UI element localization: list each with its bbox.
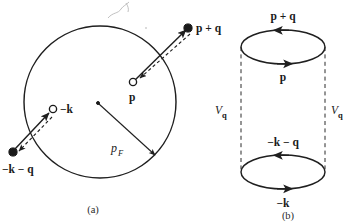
bottom-loop-ellipse	[241, 155, 325, 189]
particle-dot-p-plus-q	[184, 24, 192, 32]
label-top-p: p	[280, 71, 286, 84]
label-vq-right-subscript: q	[338, 110, 343, 120]
label-p-plus-q: p + q	[196, 22, 222, 35]
scatter-in-arrow-upper	[140, 34, 190, 78]
label-p: p	[129, 91, 135, 104]
label-bottom-minus-k: −k	[277, 197, 291, 209]
fermi-radius-arrow	[99, 104, 155, 155]
hole-circle-p	[129, 78, 136, 85]
scatter-out-arrow-lower	[15, 113, 49, 149]
fermi-momentum-label: p	[110, 141, 117, 155]
label-top-p-plus-q: p + q	[270, 10, 296, 23]
pencil-squiggle-artifact	[108, 2, 129, 18]
paper-speck-artifact	[145, 27, 147, 29]
fermi-momentum-subscript: F	[117, 148, 124, 158]
pencil-squiggle-tail-artifact	[126, 3, 128, 12]
figure-canvas: p F p + q p −k −k − q (a	[0, 0, 357, 223]
physics-figure: p F p + q p −k −k − q (a	[0, 0, 357, 223]
fermi-sphere-group: p F p + q p −k −k − q (a	[2, 22, 222, 216]
label-minus-k-minus-q: −k − q	[2, 163, 34, 176]
top-loop-ellipse	[241, 30, 325, 64]
bubble-diagram-group: p + q p −k − q −k V q V q (b)	[215, 10, 343, 222]
label-vq-left-subscript: q	[222, 110, 227, 120]
hole-circle-minus-k	[49, 105, 56, 112]
label-bottom-minus-k-minus-q: −k − q	[267, 136, 299, 149]
caption-b: (b)	[282, 210, 295, 222]
scatter-in-arrow-lower	[19, 117, 52, 151]
fermi-sphere-circle	[24, 26, 176, 178]
caption-a: (a)	[87, 204, 99, 216]
label-minus-k: −k	[60, 103, 74, 115]
particle-dot-minus-k-minus-q	[9, 148, 17, 156]
